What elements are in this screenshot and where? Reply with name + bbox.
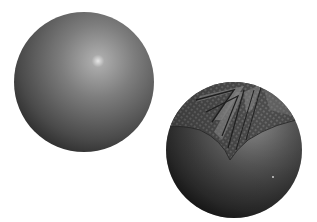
textured-sphere [160,60,317,222]
render-scene [0,0,317,222]
woven-pattern-cap [160,60,317,222]
spheres-canvas [0,0,317,222]
plain-sphere [14,12,154,152]
